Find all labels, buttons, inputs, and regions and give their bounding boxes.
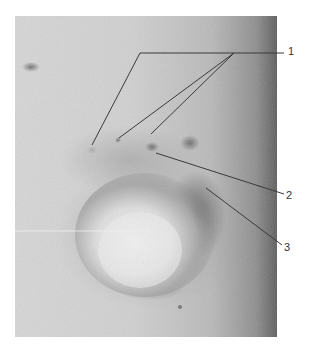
annotation-label-1: 1 <box>288 46 294 57</box>
annotation-label-3: 3 <box>284 242 290 253</box>
annotation-label-2: 2 <box>286 190 292 201</box>
clinical-photo-figure <box>0 0 314 347</box>
photo <box>15 16 277 337</box>
